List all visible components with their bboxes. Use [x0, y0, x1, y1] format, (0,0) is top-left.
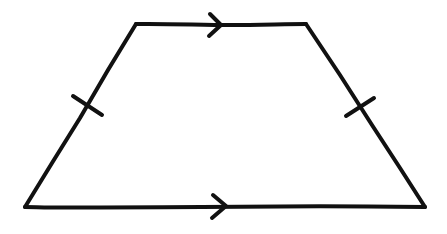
congruence-tick-icon [73, 96, 102, 115]
congruence-tick-icon [346, 98, 374, 116]
right-leg [306, 24, 425, 207]
diagram-canvas: Isosceles trapezoid [0, 0, 447, 234]
trapezoid-outline [25, 24, 425, 208]
left-leg [25, 24, 136, 207]
trapezoid-figure [0, 0, 447, 234]
